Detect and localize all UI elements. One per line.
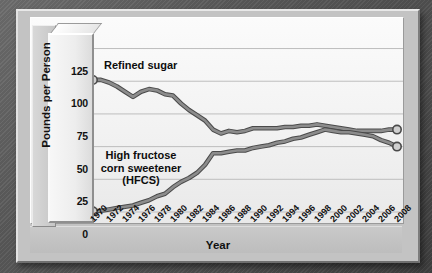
y-tick-25: 25 [50,195,88,207]
y-tick-50: 50 [50,163,88,175]
chart-card: 0255075100125 Pounds per Person Year Ref… [16,9,420,263]
series-outline-0 [93,80,397,134]
hfcs-label-line-1: High fructose [86,149,196,162]
x-axis-title: Year [18,239,418,251]
series-label-hfcs: High fructose corn sweetener (HFCS) [86,149,196,187]
series-line-0 [93,80,397,134]
series-marker-end-1 [393,142,401,150]
y-tick-75: 75 [50,130,88,142]
hfcs-label-line-3: (HFCS) [86,174,196,187]
series-marker-end-0 [393,125,401,133]
series-label-refined-sugar: Refined sugar [104,59,177,72]
y-axis-title: Pounds per Person [40,5,52,185]
hfcs-label-line-2: corn sweetener [86,162,196,175]
y-tick-100: 100 [50,97,88,109]
y-tick-125: 125 [50,65,88,77]
y-axis-wall: 0255075100125 [48,33,94,223]
